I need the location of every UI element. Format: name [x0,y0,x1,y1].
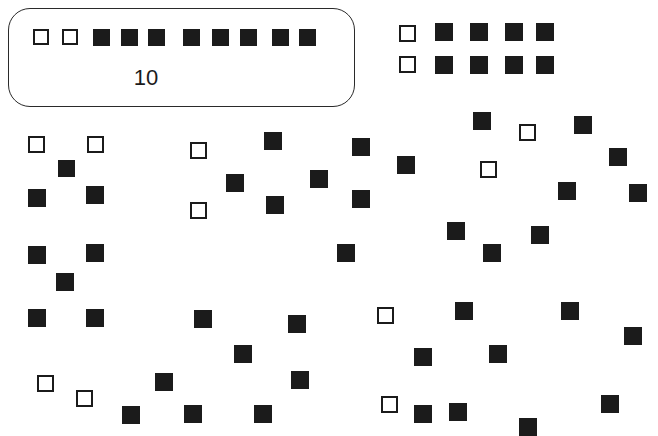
scatter-filled-square [574,116,592,134]
scatter-filled-square [86,186,104,204]
legend-filled-square [93,29,110,46]
scatter-filled-square [447,222,465,240]
scatter-filled-square [264,132,282,150]
scatter-filled-square [28,246,46,264]
scatter-filled-square [291,371,309,389]
scatter-open-square [28,136,45,153]
scale-legend-label: 10 [134,67,158,89]
scatter-filled-square [28,309,46,327]
scatter-filled-square [352,138,370,156]
cluster-filled-square [505,23,523,41]
cluster-filled-square [470,23,488,41]
legend-open-square [33,29,49,45]
scatter-open-square [190,142,207,159]
scatter-filled-square [310,170,328,188]
scatter-filled-square [122,406,140,424]
legend-filled-square [240,29,257,46]
scatter-open-square [381,396,398,413]
scatter-filled-square [234,345,252,363]
scatter-filled-square [226,174,244,192]
scatter-open-square [377,307,394,324]
scatter-open-square [190,202,207,219]
cluster-open-square [399,25,416,42]
scatter-filled-square [155,373,173,391]
scatter-filled-square [58,160,75,177]
scatter-filled-square [473,112,491,130]
scatter-filled-square [483,244,501,262]
cluster-filled-square [505,56,523,74]
scatter-filled-square [558,182,576,200]
scatter-filled-square [86,244,104,262]
scatter-open-square [87,136,104,153]
legend-filled-square [212,29,229,46]
scale-legend-box [8,8,355,107]
scatter-open-square [480,161,497,178]
scatter-filled-square [609,148,627,166]
scatter-filled-square [519,418,537,436]
scatter-filled-square [629,184,647,202]
diagram-canvas: 10 [0,0,658,436]
scatter-filled-square [449,403,467,421]
scatter-filled-square [455,302,473,320]
scatter-filled-square [352,190,370,208]
scatter-filled-square [56,273,74,291]
scatter-filled-square [337,244,355,262]
scatter-filled-square [254,405,272,423]
scatter-filled-square [184,405,202,423]
scatter-filled-square [531,226,549,244]
scatter-filled-square [414,348,432,366]
scatter-filled-square [489,345,507,363]
legend-filled-square [121,29,138,46]
scatter-filled-square [266,196,284,214]
legend-filled-square [183,29,200,46]
legend-open-square [62,29,78,45]
scatter-filled-square [561,302,579,320]
scatter-filled-square [414,405,432,423]
scatter-filled-square [86,309,104,327]
scatter-filled-square [397,156,415,174]
cluster-open-square [399,56,416,73]
scatter-filled-square [28,189,46,207]
cluster-filled-square [470,56,488,74]
scatter-open-square [37,375,54,392]
scatter-filled-square [624,327,642,345]
cluster-filled-square [435,23,453,41]
cluster-filled-square [435,56,453,74]
legend-filled-square [272,29,289,46]
scatter-filled-square [194,310,212,328]
cluster-filled-square [536,56,554,74]
scatter-open-square [76,390,93,407]
cluster-filled-square [536,23,554,41]
scatter-open-square [519,124,536,141]
legend-filled-square [148,29,165,46]
legend-filled-square [299,29,316,46]
scatter-filled-square [288,315,306,333]
scatter-filled-square [601,395,619,413]
